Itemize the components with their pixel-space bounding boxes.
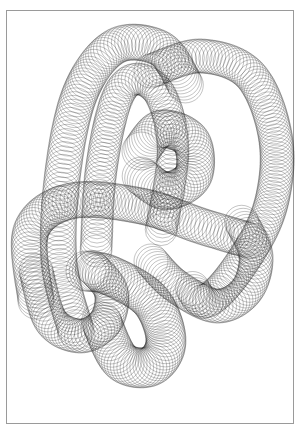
artwork-frame [6, 10, 294, 424]
spirograph-drawing [7, 11, 295, 425]
